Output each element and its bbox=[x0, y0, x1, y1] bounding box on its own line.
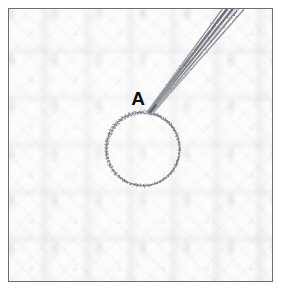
fabric-texture-columns bbox=[8, 8, 273, 282]
figure-frame: A bbox=[8, 8, 273, 282]
figure-root: A bbox=[0, 0, 282, 293]
fabric-vignette bbox=[8, 8, 273, 282]
fabric-texture-rows bbox=[8, 8, 273, 282]
fabric-texture-stitches bbox=[8, 8, 273, 282]
fabric-surface bbox=[9, 9, 272, 281]
fabric-texture-diagonal-b bbox=[8, 8, 273, 282]
annotation-label-a: A bbox=[127, 89, 149, 108]
fabric-texture-diagonal-a bbox=[8, 8, 273, 282]
